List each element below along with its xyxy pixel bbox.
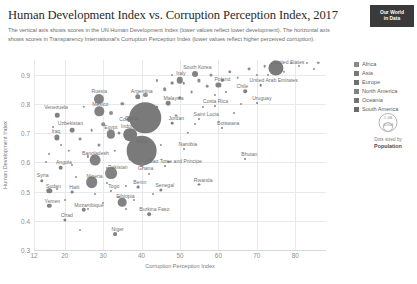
data-point[interactable] xyxy=(233,112,235,114)
data-point[interactable] xyxy=(113,149,116,152)
data-point[interactable] xyxy=(198,79,201,82)
data-point[interactable] xyxy=(156,79,158,81)
data-point[interactable] xyxy=(143,93,147,97)
data-point[interactable] xyxy=(171,82,174,85)
data-point[interactable] xyxy=(90,129,93,132)
data-point[interactable] xyxy=(54,135,59,140)
data-point-label: Syria xyxy=(37,172,49,178)
owid-logo[interactable]: Our World in Data xyxy=(370,5,414,27)
data-point[interactable] xyxy=(55,113,60,118)
data-point[interactable] xyxy=(194,123,196,125)
data-point[interactable] xyxy=(198,183,201,186)
data-point-label: Ethiopia xyxy=(116,193,134,199)
data-point[interactable] xyxy=(313,68,315,70)
data-point[interactable] xyxy=(79,229,81,231)
data-point[interactable] xyxy=(70,128,75,133)
data-point[interactable] xyxy=(202,106,204,108)
data-point[interactable] xyxy=(283,71,285,73)
data-point[interactable] xyxy=(125,208,127,210)
data-point[interactable] xyxy=(48,153,50,155)
data-point[interactable] xyxy=(121,102,124,105)
data-point[interactable] xyxy=(317,62,320,65)
data-point-label: Ghana xyxy=(138,165,153,171)
data-point[interactable] xyxy=(236,76,239,79)
data-point[interactable] xyxy=(209,73,212,76)
data-point[interactable] xyxy=(248,67,251,70)
legend-label: Asia xyxy=(362,70,373,76)
data-point[interactable] xyxy=(82,208,87,213)
data-point[interactable] xyxy=(214,105,216,107)
data-point[interactable] xyxy=(83,106,86,109)
data-point[interactable] xyxy=(107,130,115,138)
data-point[interactable] xyxy=(135,94,141,100)
data-point[interactable] xyxy=(183,82,186,85)
data-point[interactable] xyxy=(240,103,242,105)
data-point-label: Saint Lucia xyxy=(194,111,219,117)
data-point[interactable] xyxy=(87,208,89,210)
data-point[interactable] xyxy=(109,111,113,115)
legend-item-oceania[interactable]: Oceania xyxy=(354,97,417,103)
legend-swatch xyxy=(354,62,359,67)
data-point[interactable] xyxy=(113,232,117,236)
x-tick-label: 80 xyxy=(292,252,299,259)
data-point[interactable] xyxy=(225,91,227,93)
data-point[interactable] xyxy=(244,158,246,160)
data-point[interactable] xyxy=(75,176,77,178)
legend-swatch xyxy=(354,89,359,94)
data-point[interactable] xyxy=(190,91,193,94)
data-point[interactable] xyxy=(147,212,151,216)
data-point[interactable] xyxy=(214,94,216,96)
data-point[interactable] xyxy=(47,203,51,207)
data-point[interactable] xyxy=(148,173,150,175)
data-point[interactable] xyxy=(47,188,52,193)
data-point-label: Sao Tome and Principe xyxy=(149,158,202,164)
data-point[interactable] xyxy=(164,165,166,167)
data-point[interactable] xyxy=(59,166,64,171)
data-point[interactable] xyxy=(166,101,171,106)
data-point[interactable] xyxy=(45,161,47,163)
data-point[interactable] xyxy=(133,199,135,201)
data-point[interactable] xyxy=(79,137,82,140)
y-axis-ticks: 0.30.40.50.60.70.80.9 xyxy=(0,60,34,250)
data-point[interactable] xyxy=(160,144,162,146)
data-point[interactable] xyxy=(60,144,62,146)
data-point[interactable] xyxy=(171,122,174,125)
data-point-label: Poland xyxy=(214,76,230,82)
data-point[interactable] xyxy=(298,65,300,67)
data-point[interactable] xyxy=(117,132,120,135)
data-point[interactable] xyxy=(198,118,200,120)
legend-item-asia[interactable]: Asia xyxy=(354,70,417,76)
data-point[interactable] xyxy=(228,70,231,73)
legend-item-south-america[interactable]: South America xyxy=(354,106,417,112)
data-point[interactable] xyxy=(40,179,43,182)
x-axis-title: Corruption Perception Index xyxy=(34,263,326,269)
data-point[interactable] xyxy=(163,87,167,91)
data-point[interactable] xyxy=(192,71,198,77)
data-point-label: Venezuela xyxy=(44,104,68,110)
legend-item-europe[interactable]: Europe xyxy=(354,79,417,85)
data-point[interactable] xyxy=(183,148,185,150)
data-point[interactable] xyxy=(216,82,221,87)
data-point[interactable] xyxy=(98,143,101,146)
y-tick-label: 0.3 xyxy=(21,247,30,254)
data-point[interactable] xyxy=(136,186,139,189)
legend-item-north-america[interactable]: North America xyxy=(354,88,417,94)
data-point[interactable] xyxy=(125,185,127,187)
data-point[interactable] xyxy=(152,193,154,195)
legend-item-africa[interactable]: Africa xyxy=(354,61,417,67)
data-point-label: United States xyxy=(274,59,305,65)
data-point[interactable] xyxy=(306,62,308,64)
data-point[interactable] xyxy=(206,85,209,88)
data-point[interactable] xyxy=(256,102,258,104)
data-point[interactable] xyxy=(94,193,96,195)
data-point[interactable] xyxy=(263,65,266,68)
data-point[interactable] xyxy=(221,127,223,129)
data-point[interactable] xyxy=(67,149,69,151)
data-point[interactable] xyxy=(244,89,248,93)
legend-swatch xyxy=(354,71,359,76)
data-point[interactable] xyxy=(259,84,262,87)
data-point[interactable] xyxy=(64,199,66,201)
data-point[interactable] xyxy=(90,155,101,166)
data-point-label: Mexico xyxy=(92,101,108,107)
data-point[interactable] xyxy=(71,191,74,194)
